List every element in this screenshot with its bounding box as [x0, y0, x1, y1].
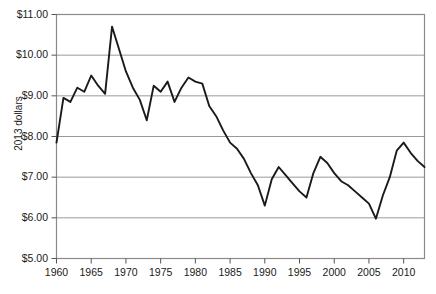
- chart-container: 2013 dollars $11.00$10.00$9.00$8.00$7.00…: [0, 0, 436, 294]
- gridlines: [57, 55, 425, 218]
- y-axis-ticks: [52, 15, 57, 259]
- x-axis-ticks: [57, 259, 404, 264]
- chart-plot-area: [0, 0, 436, 294]
